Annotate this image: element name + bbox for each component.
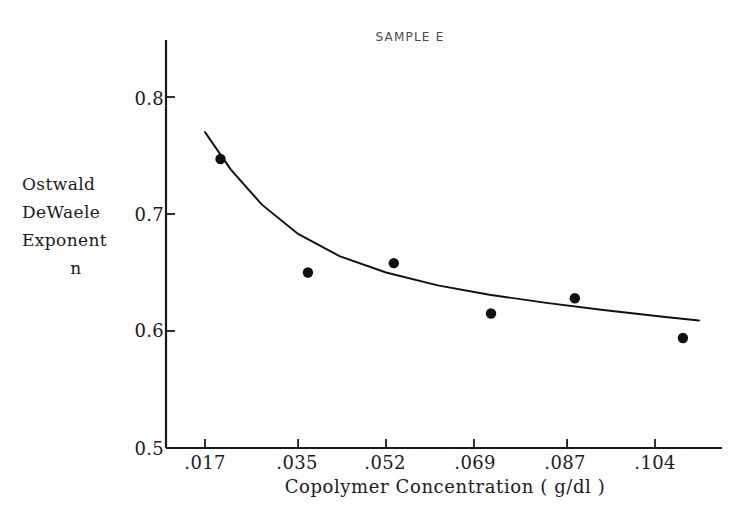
data-point: [215, 154, 225, 164]
chart-figure: SAMPLE E Ostwald DeWaele Exponent n 0.8 …: [0, 0, 751, 528]
plot-area: [0, 0, 751, 528]
data-point: [303, 267, 313, 277]
data-point: [389, 258, 399, 268]
y-axis-ticks: [166, 97, 175, 448]
data-point-group: [215, 154, 688, 343]
axes-group: [166, 40, 722, 448]
fitted-curve: [205, 132, 699, 320]
data-point: [570, 293, 580, 303]
data-point: [678, 333, 688, 343]
x-axis-ticks: [205, 439, 655, 448]
data-point: [486, 308, 496, 318]
